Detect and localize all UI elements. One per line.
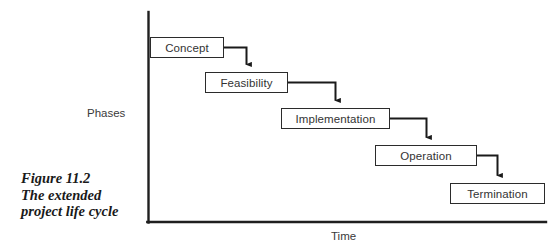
connector-feasibility-to-implementation: [288, 83, 336, 101]
connector-implementation-to-operation: [390, 119, 427, 138]
phase-box-label: Termination: [467, 188, 528, 200]
phase-box-concept[interactable]: Concept: [150, 37, 224, 58]
phase-box-termination[interactable]: Termination: [450, 183, 545, 204]
phase-box-operation[interactable]: Operation: [375, 145, 477, 166]
figure-caption: Figure 11.2 The extended project life cy…: [21, 170, 151, 220]
connector-operation-to-termination: [477, 156, 498, 176]
phase-box-feasibility[interactable]: Feasibility: [205, 72, 288, 93]
figure-caption-line-1: Figure 11.2: [21, 170, 151, 187]
phase-box-label: Concept: [165, 42, 209, 54]
figure-extended-project-life-cycle: Concept Feasibility Implementation Opera…: [0, 0, 553, 249]
connector-concept-to-feasibility: [224, 48, 247, 65]
x-axis-label: Time: [331, 230, 356, 242]
figure-caption-line-3: project life cycle: [21, 203, 151, 220]
phase-box-implementation[interactable]: Implementation: [281, 108, 390, 129]
y-axis-label: Phases: [87, 107, 125, 119]
figure-caption-line-2: The extended: [21, 187, 151, 204]
phase-box-label: Implementation: [295, 113, 375, 125]
phase-box-label: Operation: [400, 150, 451, 162]
phase-box-label: Feasibility: [220, 77, 272, 89]
